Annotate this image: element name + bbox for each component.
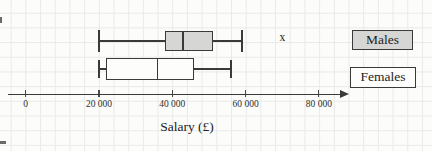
whisker-cap (230, 60, 232, 78)
whisker-cap (98, 60, 100, 78)
legend-females-label: Females (361, 69, 406, 85)
legend-males: Males (352, 30, 413, 50)
x-axis-line (8, 94, 341, 95)
axis-tick-label: 0 (4, 99, 48, 110)
legend-males-label: Males (366, 32, 399, 48)
axis-tick-label: 80 000 (297, 99, 341, 110)
outlier-marker: x (277, 31, 287, 43)
legend-females: Females (350, 67, 416, 88)
box-iqr (106, 58, 194, 80)
scan-artifact (0, 141, 6, 144)
axis-tick-label: 60 000 (224, 99, 268, 110)
x-axis-arrow-icon (340, 90, 349, 98)
x-axis-title: Salary (£) (120, 119, 254, 135)
axis-tick-label: 40 000 (150, 99, 194, 110)
box-iqr (165, 31, 213, 51)
whisker-line (213, 40, 242, 41)
axis-tick-label: 20 000 (77, 99, 121, 110)
median-line (157, 58, 159, 80)
whisker-line (194, 68, 231, 69)
boxplot-figure: x020 00040 00060 00080 000 Salary (£) Ma… (0, 0, 432, 151)
scan-artifact (0, 17, 2, 23)
whisker-line (99, 40, 165, 41)
whisker-line (99, 68, 106, 69)
whisker-cap (98, 30, 100, 52)
whisker-cap (241, 30, 243, 52)
median-line (182, 31, 184, 51)
